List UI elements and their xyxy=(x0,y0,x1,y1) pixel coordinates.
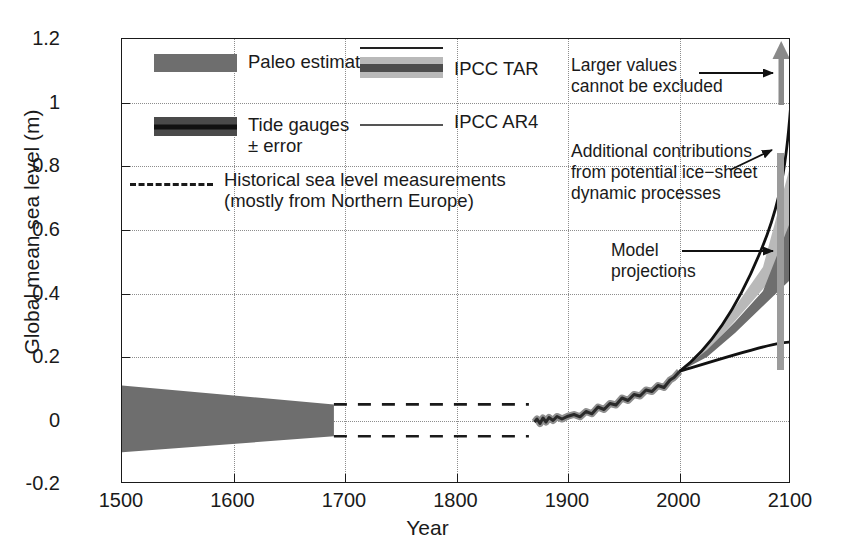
dashed-line-swatch xyxy=(130,169,213,186)
legend-label-tide-line1: Tide gauges xyxy=(248,114,349,135)
legend-item-historical: Historical sea level measurements (mostl… xyxy=(130,169,506,211)
legend-label-ipcc-ar4: IPCC AR4 xyxy=(454,111,538,132)
y-tick-1: 1 xyxy=(0,90,60,113)
y-tick-0_6: 0.6 xyxy=(0,218,60,241)
y-tick-neg0_2: -0.2 xyxy=(0,472,60,495)
annotation-larger-values: Larger values cannot be excluded xyxy=(571,55,723,97)
legend-item-ipcc-ar4: IPCC AR4 xyxy=(360,111,538,132)
y-tick-0_8: 0.8 xyxy=(0,154,60,177)
annotation-model-line2: projections xyxy=(611,261,696,282)
x-tick-1900: 1900 xyxy=(545,489,590,512)
legend-label-tide-gauges: Tide gauges ± error xyxy=(248,114,349,156)
x-axis-title: Year xyxy=(0,516,855,540)
annotation-larger-values-line2: cannot be excluded xyxy=(571,76,723,97)
paleo-swatch xyxy=(154,51,237,72)
annotation-larger-values-line1: Larger values xyxy=(571,55,723,76)
plot-area: Paleo estimates Tide gauges ± error Hist… xyxy=(121,38,790,483)
legend-label-historical: Historical sea level measurements (mostl… xyxy=(224,169,506,211)
annotation-model-line1: Model xyxy=(611,240,696,261)
ice-sheet-contribution-bar xyxy=(777,153,784,370)
annotation-additional-line1: Additional contributions xyxy=(571,141,757,162)
y-tick-1_2: 1.2 xyxy=(0,27,60,50)
legend-item-ipcc-tar: IPCC TAR xyxy=(360,47,539,79)
annotation-additional-line2: from potential ice−sheet xyxy=(571,162,757,183)
ipcc-ar4-swatch xyxy=(360,111,443,126)
ipcc-tar-swatch xyxy=(360,47,443,78)
larger-values-arrow-head xyxy=(773,41,790,59)
legend-item-paleo: Paleo estimates xyxy=(154,51,380,72)
x-tick-1600: 1600 xyxy=(210,489,255,512)
y-tick-0_2: 0.2 xyxy=(0,345,60,368)
x-tick-1700: 1700 xyxy=(322,489,367,512)
tide-gauge-swatch xyxy=(154,114,237,136)
y-tick-0_4: 0.4 xyxy=(0,281,60,304)
legend-label-tide-line2: ± error xyxy=(248,135,349,156)
annotation-additional-contributions: Additional contributions from potential … xyxy=(571,141,757,204)
legend-label-ipcc-tar: IPCC TAR xyxy=(454,58,539,79)
annotation-additional-line3: dynamic processes xyxy=(571,183,757,204)
legend-label-historical-line2: (mostly from Northern Europe) xyxy=(224,190,506,211)
annotation-model-projections: Model projections xyxy=(611,240,696,282)
larger-values-arrow-shaft xyxy=(779,53,785,105)
x-tick-1800: 1800 xyxy=(433,489,478,512)
legend-item-tide-gauges: Tide gauges ± error xyxy=(154,114,349,156)
x-tick-1500: 1500 xyxy=(99,489,144,512)
paleo-estimates-band xyxy=(122,386,334,453)
sea-level-chart-figure: Global mean sea level (m) 1.2 1 0.8 0.6 … xyxy=(0,0,855,557)
y-tick-0: 0 xyxy=(0,409,60,432)
legend-label-historical-line1: Historical sea level measurements xyxy=(224,169,506,190)
x-tick-2000: 2000 xyxy=(656,489,701,512)
tide-gauge-line xyxy=(535,371,680,423)
x-tick-2100: 2100 xyxy=(768,489,813,512)
